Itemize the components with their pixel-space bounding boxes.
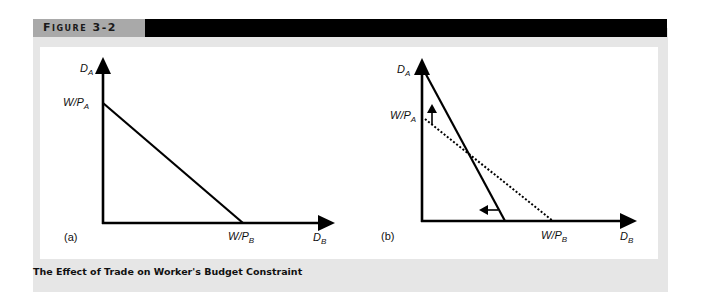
figure-caption: The Effect of Trade on Worker's Budget C…: [33, 266, 302, 277]
x-axis-arrow-icon: [318, 215, 335, 231]
y-axis-label-b: DA: [397, 63, 410, 78]
x-axis-arrow-icon: [620, 213, 637, 229]
panel-label-a: (a): [64, 231, 77, 243]
shift-left-arrow-icon: [479, 205, 488, 215]
x-axis-label-a: DB: [313, 231, 327, 246]
y-intercept-label-a: W/PA: [63, 96, 89, 111]
y-axis-arrow-icon: [95, 57, 111, 74]
y-axis-label-a: DA: [80, 62, 93, 77]
diagrams-svg: DA W/PA W/PB DB (a) DA W/PA W/PB DB (b): [0, 0, 702, 306]
diagram-b: DA W/PA W/PB DB (b): [381, 58, 637, 245]
x-axis-label-b: DB: [620, 230, 634, 245]
x-intercept-label-b: W/PB: [541, 229, 568, 244]
diagram-a: DA W/PA W/PB DB (a): [63, 57, 335, 246]
x-intercept-label-a: W/PB: [228, 230, 255, 245]
y-intercept-label-b: W/PA: [390, 109, 416, 124]
original-budget-line: [425, 119, 553, 221]
shift-up-arrow-icon: [427, 104, 437, 113]
y-axis-arrow-icon: [414, 58, 430, 75]
budget-line-a: [103, 103, 243, 223]
post-trade-budget-line: [422, 67, 505, 221]
panel-label-b: (b): [381, 230, 394, 242]
